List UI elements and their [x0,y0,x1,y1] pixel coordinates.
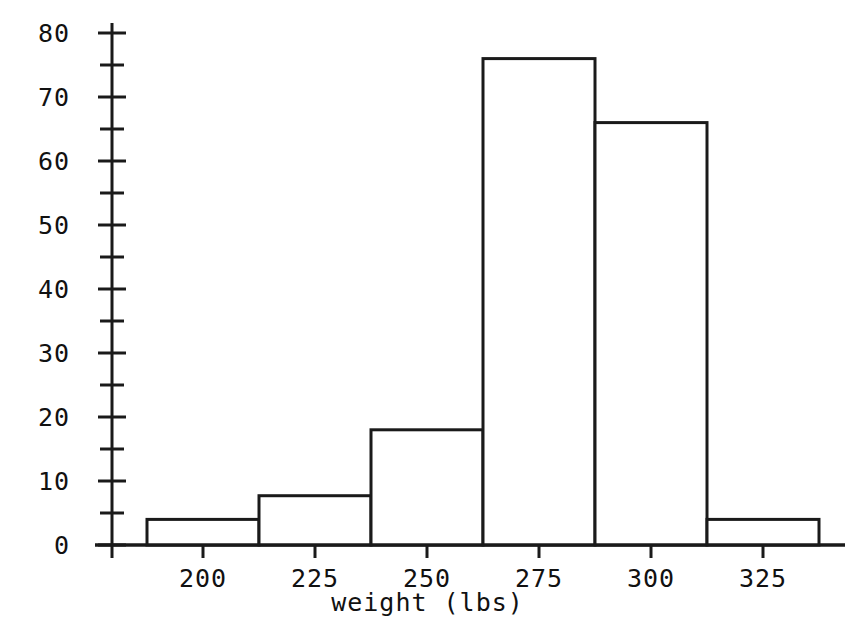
histogram-bar [371,430,483,545]
y-tick-label: 30 [0,339,70,368]
y-tick-label: 20 [0,403,70,432]
histogram-bar [483,59,595,545]
y-tick-label: 70 [0,83,70,112]
plot-area [0,0,855,633]
y-tick-label: 80 [0,19,70,48]
y-tick-label: 10 [0,467,70,496]
histogram-bars [147,59,819,545]
x-axis-title: weight (lbs) [0,588,855,617]
y-tick-label: 60 [0,147,70,176]
histogram-chart: 01020304050607080 200225250275300325 wei… [0,0,855,633]
y-tick-label: 50 [0,211,70,240]
histogram-bar [147,519,259,545]
y-tick-label: 40 [0,275,70,304]
histogram-bar [595,123,707,545]
histogram-bar [259,496,371,545]
y-tick-label: 0 [0,531,70,560]
histogram-bar [707,519,819,545]
